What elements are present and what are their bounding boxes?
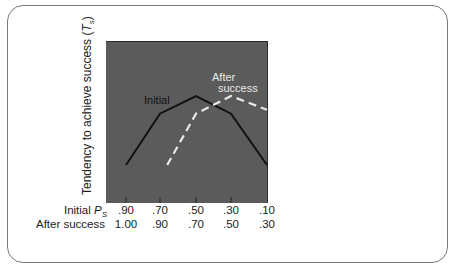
x-tick-label: .50 (188, 204, 204, 216)
initial-series-annotation: Initial (144, 95, 170, 106)
x-tick-label: .90 (118, 204, 134, 216)
x-tick-label: .70 (152, 204, 168, 216)
series-initial-line (126, 96, 267, 165)
annotation-line-2: success (212, 83, 254, 94)
x-tick-label: .90 (152, 218, 168, 230)
x-tick-label: .30 (223, 204, 239, 216)
x-row-label-after-success: After success (36, 218, 105, 230)
x-axis-ticks (126, 197, 231, 203)
x-tick-label: .70 (188, 218, 204, 230)
x-tick-label: .10 (259, 204, 275, 216)
after-success-annotation: After success (212, 72, 254, 94)
x-row-label-initial: Initial PS (64, 204, 107, 219)
x-tick-label: .50 (223, 218, 239, 230)
x-tick-label: .30 (259, 218, 275, 230)
x-tick-label: 1.00 (115, 218, 137, 230)
